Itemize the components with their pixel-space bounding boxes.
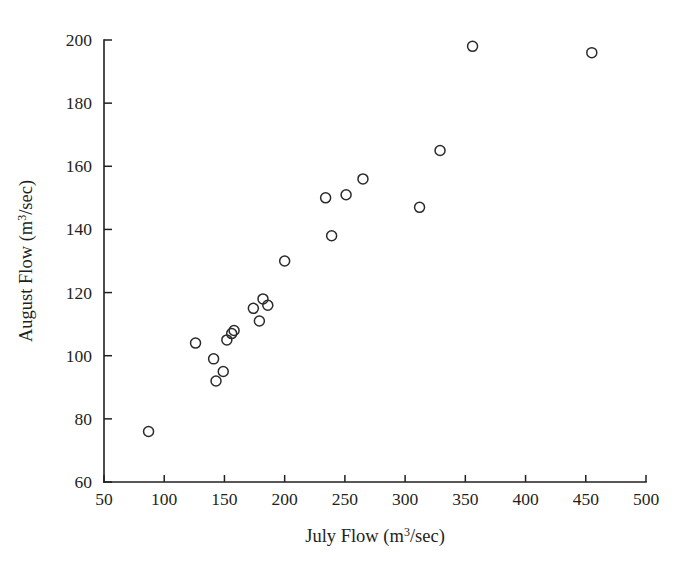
- y-axis-tick-labels: 6080100120140160180200: [66, 30, 93, 492]
- data-point-marker: [327, 231, 337, 241]
- data-point-marker: [254, 316, 264, 326]
- y-tick-label: 140: [66, 219, 93, 239]
- axes: [104, 40, 646, 482]
- x-axis-tick-labels: 50100150200250300350400450500: [95, 489, 659, 509]
- scatter-plot-figure: 50100150200250300350400450500 6080100120…: [0, 0, 679, 569]
- data-point-marker: [209, 354, 219, 364]
- y-tick-label: 160: [66, 156, 93, 176]
- data-point-marker: [587, 48, 597, 58]
- data-point-marker: [341, 190, 351, 200]
- x-tick-label: 150: [211, 489, 238, 509]
- x-tick-label: 200: [272, 489, 299, 509]
- data-point-marker: [218, 367, 228, 377]
- data-point-marker: [415, 202, 425, 212]
- x-tick-label: 500: [633, 489, 660, 509]
- y-tick-label: 180: [66, 93, 93, 113]
- y-tick-label: 80: [75, 409, 93, 429]
- data-point-marker: [144, 426, 154, 436]
- data-point-marker: [248, 303, 258, 313]
- x-axis-ticks: [104, 475, 646, 482]
- data-point-marker: [211, 376, 221, 386]
- y-axis-title: August Flow (m3/sec): [15, 180, 37, 342]
- data-point-marker: [358, 174, 368, 184]
- data-point-marker: [468, 41, 478, 51]
- x-tick-label: 350: [452, 489, 479, 509]
- data-point-marker: [229, 325, 239, 335]
- y-tick-label: 60: [75, 472, 93, 492]
- x-tick-label: 250: [332, 489, 359, 509]
- y-tick-label: 200: [66, 30, 93, 50]
- data-point-marker: [191, 338, 201, 348]
- x-tick-label: 450: [573, 489, 600, 509]
- x-tick-label: 50: [95, 489, 113, 509]
- y-tick-label: 120: [66, 283, 93, 303]
- data-point-series: [144, 41, 597, 436]
- data-point-marker: [435, 146, 445, 156]
- data-point-marker: [321, 193, 331, 203]
- y-axis-ticks: [104, 40, 112, 482]
- y-tick-label: 100: [66, 346, 93, 366]
- x-tick-label: 300: [392, 489, 419, 509]
- plot-canvas: 50100150200250300350400450500 6080100120…: [0, 0, 679, 569]
- x-tick-label: 100: [151, 489, 178, 509]
- x-tick-label: 400: [512, 489, 539, 509]
- x-axis-title: July Flow (m3/sec): [305, 525, 445, 547]
- data-point-marker: [280, 256, 290, 266]
